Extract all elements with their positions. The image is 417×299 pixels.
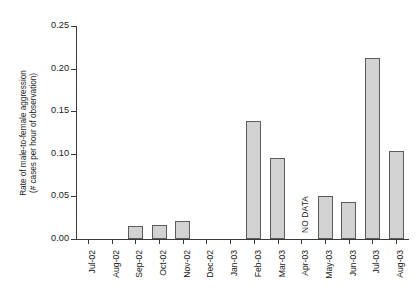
x-axis-line xyxy=(76,239,409,240)
bar xyxy=(152,225,167,239)
x-axis-tick xyxy=(183,239,184,244)
x-axis-tick-label: Nov-02 xyxy=(182,250,191,278)
x-axis-tick-label: Jan-03 xyxy=(230,250,239,276)
y-axis-tick-label: 0.20 xyxy=(51,64,69,73)
y-axis-title-line-1: Rate of male-to-female aggression xyxy=(19,70,29,196)
x-axis-tick xyxy=(112,239,113,244)
bar xyxy=(389,151,404,239)
no-data-annotation: NO DATA xyxy=(301,196,309,233)
bar xyxy=(175,221,190,239)
x-axis-tick-label: Sep-02 xyxy=(135,250,144,278)
y-axis-tick xyxy=(71,239,76,240)
x-axis-tick-label: Apr-03 xyxy=(301,250,310,276)
y-axis-tick-label: 0.00 xyxy=(51,234,69,243)
x-axis-tick-label: Feb-03 xyxy=(254,250,263,277)
bar xyxy=(365,58,380,239)
bar-chart: Rate of male-to-female aggression (# cas… xyxy=(0,0,417,299)
x-axis-tick xyxy=(278,239,279,244)
y-axis-tick xyxy=(71,26,76,27)
x-axis-tick-label: Oct-02 xyxy=(159,250,168,276)
x-axis-tick-label: Jun-03 xyxy=(348,250,357,276)
y-axis-tick-label: 0.15 xyxy=(51,107,69,116)
x-axis-tick xyxy=(159,239,160,244)
x-axis-tick-label: Jul-03 xyxy=(372,250,381,273)
y-axis-tick-label: 0.25 xyxy=(51,21,69,30)
x-axis-tick-label: Dec-02 xyxy=(206,250,215,278)
y-axis-title: Rate of male-to-female aggression (# cas… xyxy=(14,18,44,248)
x-axis-tick xyxy=(254,239,255,244)
plot-area: 0.000.050.100.150.200.25Jul-02Aug-02Sep-… xyxy=(76,26,408,239)
x-axis-tick xyxy=(372,239,373,244)
bar xyxy=(318,196,333,239)
x-axis-tick-label: May-03 xyxy=(325,250,334,279)
y-axis-title-line-2: (# cases per hour of observation) xyxy=(29,73,39,193)
x-axis-tick-label: Aug-03 xyxy=(396,250,405,278)
x-axis-tick-label: Aug-02 xyxy=(111,250,120,278)
y-axis-tick-label: 0.05 xyxy=(51,192,69,201)
bar xyxy=(246,121,261,239)
y-axis-tick xyxy=(71,196,76,197)
bar xyxy=(341,202,356,239)
y-axis-tick-label: 0.10 xyxy=(51,149,69,158)
x-axis-tick xyxy=(349,239,350,244)
x-axis-tick xyxy=(230,239,231,244)
x-axis-tick xyxy=(301,239,302,244)
bar xyxy=(128,226,143,239)
x-axis-tick-label: Mar-03 xyxy=(277,250,286,277)
x-axis-tick-label: Jul-02 xyxy=(88,250,97,273)
x-axis-tick xyxy=(325,239,326,244)
y-axis-tick xyxy=(71,111,76,112)
x-axis-tick xyxy=(88,239,89,244)
y-axis-tick xyxy=(71,154,76,155)
x-axis-tick xyxy=(206,239,207,244)
x-axis-tick xyxy=(396,239,397,244)
x-axis-tick xyxy=(135,239,136,244)
bar xyxy=(270,158,285,239)
y-axis-tick xyxy=(71,69,76,70)
